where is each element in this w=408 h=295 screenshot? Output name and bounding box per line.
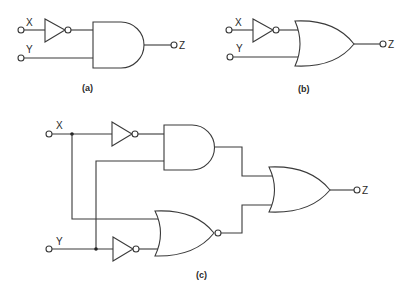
input-terminal-x (226, 27, 232, 33)
not-gate-x (45, 19, 65, 42)
output-terminal-z (171, 42, 177, 48)
wire-nor-to-or (221, 205, 273, 233)
panel-b: X Y Z (b) (226, 17, 394, 94)
input-label-x: X (235, 17, 242, 28)
output-label-z: Z (362, 185, 368, 196)
wire-y-to-and (96, 161, 164, 249)
or-gate (295, 21, 354, 66)
output-terminal-z (354, 187, 360, 193)
output-terminal-z (380, 41, 386, 47)
panel-c: X Y Z (c) (46, 120, 368, 280)
input-terminal-x (46, 131, 52, 137)
or-gate (269, 167, 330, 212)
caption-b: (b) (298, 84, 310, 94)
wire-and-to-or (215, 147, 273, 176)
input-label-y: Y (26, 44, 33, 55)
input-label-y: Y (56, 236, 63, 247)
logic-circuit-diagram: X Y Z (a) X Y Z (b) X (0, 0, 408, 295)
inverter-bubble-icon (133, 246, 139, 252)
input-label-x: X (26, 17, 33, 28)
inverter-bubble-icon (65, 27, 71, 33)
caption-c: (c) (196, 270, 207, 280)
input-terminal-x (18, 27, 24, 33)
input-label-y: Y (236, 43, 243, 54)
panel-a: X Y Z (a) (18, 17, 185, 93)
caption-a: (a) (82, 83, 93, 93)
output-label-z: Z (179, 40, 185, 51)
output-label-z: Z (388, 39, 394, 50)
input-terminal-y (227, 54, 233, 60)
and-gate (93, 22, 144, 68)
not-gate-x (253, 19, 273, 42)
and-gate (164, 125, 215, 170)
not-gate-x (112, 122, 132, 146)
junction-y (94, 247, 98, 251)
nor-gate (155, 211, 214, 256)
input-label-x: X (56, 120, 63, 131)
inverter-bubble-icon (273, 27, 279, 33)
not-gate-y (113, 237, 133, 261)
input-terminal-y (46, 246, 52, 252)
inverter-bubble-icon (132, 131, 138, 137)
nor-bubble-icon (215, 230, 221, 236)
input-terminal-y (18, 55, 24, 61)
wire-x-to-nor (72, 134, 161, 219)
